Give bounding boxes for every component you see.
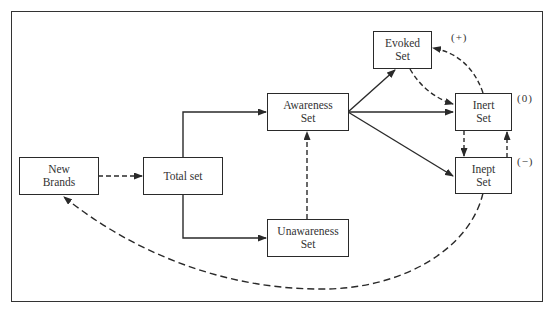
awareness-line2: Set (283, 112, 332, 125)
awareness-line1: Awareness (283, 99, 332, 112)
edge-inert-evoked (433, 48, 483, 93)
unawareness-line2: Set (277, 238, 338, 251)
inert-line2: Set (473, 112, 495, 125)
edge-totalset-unawareness (183, 194, 266, 238)
sign-negative: (−) (517, 155, 534, 167)
node-awareness-set: Awareness Set (267, 93, 349, 131)
new-brands-line1: New (43, 163, 76, 176)
node-unawareness-set: Unawareness Set (267, 219, 349, 257)
sign-neutral: (0) (517, 92, 533, 104)
evoked-line1: Evoked (385, 37, 420, 50)
edge-awareness-evoked (348, 70, 395, 112)
node-evoked-set: Evoked Set (373, 31, 432, 69)
edge-totalset-awareness (183, 112, 266, 157)
edge-evoked-inert (410, 69, 453, 104)
node-inert-set: Inert Set (455, 93, 512, 131)
sign-positive: (+) (451, 31, 468, 43)
total-set-label: Total set (163, 170, 202, 183)
inert-line1: Inert (473, 99, 495, 112)
evoked-line2: Set (385, 50, 420, 63)
node-new-brands: New Brands (19, 157, 99, 195)
node-inept-set: Inept Set (455, 157, 512, 194)
inept-line2: Set (472, 176, 496, 189)
new-brands-line2: Brands (43, 176, 76, 189)
inept-line1: Inept (472, 163, 496, 176)
edge-awareness-inept (348, 112, 453, 176)
node-total-set: Total set (143, 157, 223, 195)
unawareness-line1: Unawareness (277, 225, 338, 238)
